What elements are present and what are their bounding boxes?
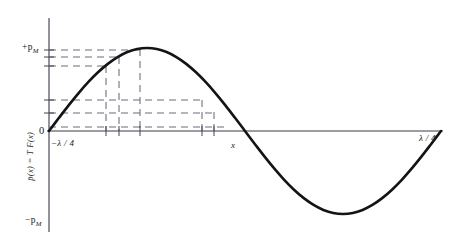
y-axis-max-label: +pM [22, 43, 39, 55]
vertical-construction-lines [106, 49, 214, 131]
sine-wave-plot [0, 0, 449, 247]
horizontal-construction-lines [49, 50, 228, 127]
figure-container: +pM −pM 0 −λ / 4 λ / 4 x p̄(x) = T F(x) [0, 0, 449, 247]
origin-label: 0 [39, 126, 45, 137]
x-axis-right-label: λ / 4 [419, 134, 436, 143]
x-point-label: x [231, 141, 235, 150]
y-axis-title: p̄(x) = T F(x) [26, 108, 35, 204]
axis-tick-marks [44, 50, 214, 136]
y-axis-min-label: −pM [25, 216, 42, 228]
x-axis-left-label: −λ / 4 [51, 139, 74, 148]
